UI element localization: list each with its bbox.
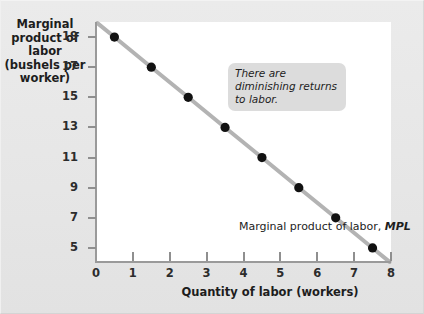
x-tick-7 — [353, 252, 355, 261]
data-point-3.5-13 — [220, 123, 229, 132]
y-tick-11 — [88, 157, 96, 159]
x-tick-label-4: 4 — [224, 266, 264, 280]
diminishing-returns-note: There are diminishing returns to labor. — [228, 63, 346, 111]
curve-label-symbol: MPL — [385, 220, 411, 233]
x-tick-label-5: 5 — [260, 266, 300, 280]
y-tick-label-19: 19 — [38, 31, 78, 42]
y-tick-label-5: 5 — [38, 242, 78, 253]
y-axis-line — [95, 22, 97, 263]
x-tick-6 — [316, 252, 318, 261]
x-axis-title: Quantity of labor (workers) — [120, 285, 420, 299]
y-tick-19 — [88, 36, 96, 38]
x-tick-label-3: 3 — [187, 266, 227, 280]
x-tick-label-2: 2 — [150, 266, 190, 280]
y-tick-17 — [88, 66, 96, 68]
data-point-0.5-19 — [110, 32, 119, 41]
x-tick-label-0: 0 — [76, 266, 116, 280]
data-point-5.5-9 — [294, 183, 303, 192]
x-tick-4 — [243, 252, 245, 261]
y-tick-label-13: 13 — [38, 121, 78, 132]
y-tick-label-9: 9 — [38, 182, 78, 193]
x-tick-3 — [206, 252, 208, 261]
data-point-1.5-17 — [147, 63, 156, 72]
y-tick-13 — [88, 126, 96, 128]
y-tick-label-11: 11 — [38, 152, 78, 163]
x-tick-8 — [390, 252, 392, 261]
x-tick-1 — [132, 252, 134, 261]
annotation-line-1: There are diminishing — [235, 67, 296, 92]
x-tick-label-8: 8 — [371, 266, 411, 280]
data-point-7.5-5 — [368, 243, 377, 252]
y-tick-label-17: 17 — [38, 61, 78, 72]
y-tick-label-7: 7 — [38, 212, 78, 223]
x-tick-2 — [169, 252, 171, 261]
x-tick-5 — [279, 252, 281, 261]
y-tick-9 — [88, 187, 96, 189]
x-tick-label-6: 6 — [297, 266, 337, 280]
x-tick-label-1: 1 — [113, 266, 153, 280]
y-tick-7 — [88, 217, 96, 219]
data-point-4.5-11 — [257, 153, 266, 162]
y-tick-15 — [88, 96, 96, 98]
curve-label: Marginal product of labor, MPL — [239, 220, 411, 233]
curve-label-text: Marginal product of labor, — [239, 220, 385, 233]
data-point-2.5-15 — [184, 93, 193, 102]
y-tick-label-15: 15 — [38, 91, 78, 102]
x-axis-line — [95, 261, 391, 263]
y-tick-5 — [88, 247, 96, 249]
chart-figure: Marginal product of labor (bushels per w… — [0, 0, 424, 314]
x-tick-label-7: 7 — [334, 266, 374, 280]
